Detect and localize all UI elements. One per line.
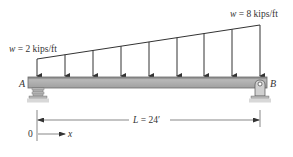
support-b-label: B xyxy=(270,78,276,89)
beam xyxy=(28,77,267,88)
x-axis-label: x xyxy=(67,129,73,139)
origin-label: 0 xyxy=(28,129,33,139)
x-axis xyxy=(37,127,65,141)
support-a-label: A xyxy=(18,78,26,89)
load-left-label: w = 2 kips/ft xyxy=(9,44,57,54)
load-right-label: w = 8 kips/ft xyxy=(230,9,278,19)
distributed-load xyxy=(37,25,260,76)
beam-diagram: w = 2 kips/ft w = 8 kips/ft A B L = 24′ … xyxy=(0,0,293,157)
support-a-icon xyxy=(27,88,49,103)
span-label: L = 24′ xyxy=(132,115,160,125)
